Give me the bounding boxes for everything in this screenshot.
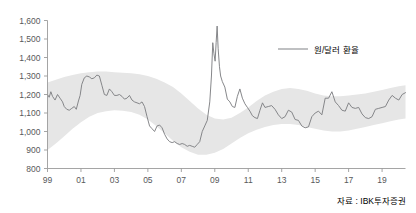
x-axis-tick-label: 03 <box>110 175 120 185</box>
x-axis-tick-label: 05 <box>143 175 153 185</box>
x-axis-tick-label: 01 <box>76 175 86 185</box>
y-axis-tick-label: 1,200 <box>19 90 41 100</box>
source-note: 자료 : IBK투자증권 <box>337 190 406 208</box>
x-axis-tick-label: 19 <box>377 175 387 185</box>
x-axis-tick-label: 13 <box>277 175 287 185</box>
y-axis-tick-label: 1,600 <box>19 16 41 26</box>
chart-legend: 원/달러 환율 <box>278 43 359 55</box>
y-axis-tick-label: 1,300 <box>19 71 41 81</box>
x-axis-tick-label: 17 <box>344 175 354 185</box>
y-axis-tick-labels: 8009001,0001,1001,2001,3001,4001,5001,60… <box>19 16 41 174</box>
legend-line-swatch <box>278 45 308 53</box>
legend-item-label: 원/달러 환율 <box>314 43 359 55</box>
x-axis-tick-labels: 9901030507091113151719 <box>43 175 387 185</box>
exchange-rate-chart: 8009001,0001,1001,2001,3001,4001,5001,60… <box>0 0 416 213</box>
y-axis-tick-label: 800 <box>26 164 40 174</box>
x-axis-tick-label: 15 <box>310 175 320 185</box>
source-note-text: 자료 : IBK투자증권 <box>337 196 406 206</box>
y-axis-tick-label: 1,000 <box>19 127 41 137</box>
chart-canvas: 8009001,0001,1001,2001,3001,4001,5001,60… <box>0 0 416 213</box>
y-axis-tick-label: 900 <box>26 145 40 155</box>
y-axis-tick-label: 1,500 <box>19 34 41 44</box>
y-axis-tick-label: 1,400 <box>19 53 41 63</box>
x-axis-tick-label: 99 <box>43 175 53 185</box>
x-axis-tick-label: 09 <box>210 175 220 185</box>
x-axis-tick-label: 11 <box>244 175 253 185</box>
y-axis-tick-label: 1,100 <box>19 108 41 118</box>
x-axis-tick-label: 07 <box>177 175 187 185</box>
